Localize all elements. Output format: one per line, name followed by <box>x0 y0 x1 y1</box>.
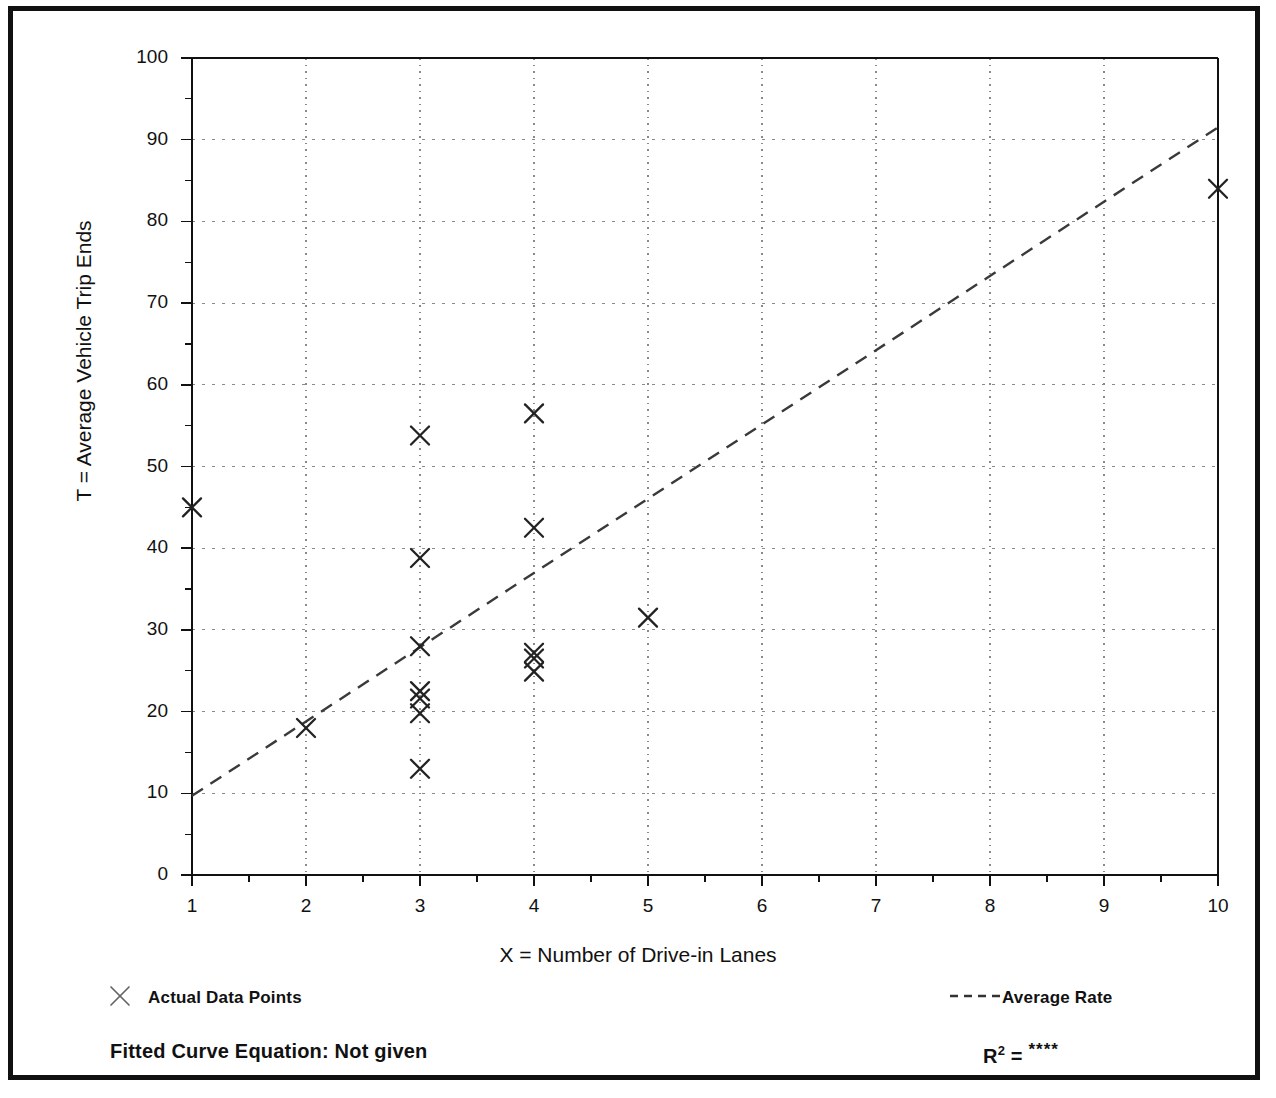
y-axis-title: T = Average Vehicle Trip Ends <box>72 81 96 641</box>
x-tick-label: 1 <box>172 895 212 917</box>
chart-canvas <box>0 0 1276 1098</box>
legend-label-average-rate: Average Rate <box>1002 988 1112 1008</box>
average-rate-trend-line <box>192 127 1218 795</box>
y-tick-label: 90 <box>116 128 168 150</box>
y-tick-label: 60 <box>116 373 168 395</box>
fitted-curve-equation: Fitted Curve Equation: Not given <box>110 1040 428 1063</box>
y-tick-label: 10 <box>116 781 168 803</box>
r-squared-value: R2 = **** <box>983 1040 1059 1068</box>
x-tick-label: 5 <box>628 895 668 917</box>
x-tick-label: 2 <box>286 895 326 917</box>
r-squared-stars: **** <box>1029 1040 1059 1059</box>
data-point-markers <box>183 180 1227 778</box>
x-tick-label: 4 <box>514 895 554 917</box>
legend-label-actual-data-points: Actual Data Points <box>148 988 302 1008</box>
y-tick-label: 80 <box>116 209 168 231</box>
r-squared-equals: = <box>1005 1045 1028 1067</box>
x-tick-label: 6 <box>742 895 782 917</box>
y-tick-label: 50 <box>116 455 168 477</box>
axis-ticks <box>181 58 1218 886</box>
x-tick-label: 7 <box>856 895 896 917</box>
x-axis-title: X = Number of Drive-in Lanes <box>0 943 1276 967</box>
x-tick-label: 10 <box>1198 895 1238 917</box>
y-tick-label: 100 <box>116 46 168 68</box>
grid-lines <box>192 58 1218 875</box>
y-tick-label: 40 <box>116 536 168 558</box>
y-tick-label: 20 <box>116 700 168 722</box>
scatter-chart: 0102030405060708090100 12345678910 X = N… <box>0 0 1276 1098</box>
x-tick-label: 8 <box>970 895 1010 917</box>
r-squared-symbol: R <box>983 1045 998 1067</box>
y-tick-label: 70 <box>116 291 168 313</box>
x-tick-label: 9 <box>1084 895 1124 917</box>
r-squared-exponent: 2 <box>998 1043 1005 1058</box>
x-tick-label: 3 <box>400 895 440 917</box>
y-tick-label: 30 <box>116 618 168 640</box>
y-tick-label: 0 <box>116 863 168 885</box>
